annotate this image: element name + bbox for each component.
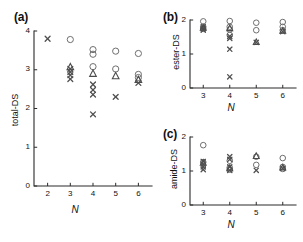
panel-c-series-triangle — [200, 153, 285, 171]
panel-a-label: (a) — [14, 10, 28, 24]
data-point-triangle — [112, 72, 119, 78]
panel-c-series-cross — [201, 155, 285, 173]
figure-scatter-panels: (a) total-DS N 0123423456 (b) ester-DS N… — [0, 0, 303, 242]
panel-a: (a) total-DS N 0123423456 — [0, 0, 160, 242]
data-point-circle — [253, 27, 259, 33]
panel-b-series-cross — [201, 25, 285, 79]
panel-a-series-triangle — [67, 63, 142, 82]
panel-b: (b) ester-DS N 0123456 — [160, 0, 303, 120]
data-point-circle — [113, 66, 119, 72]
panel-c-x-axis-title: N — [216, 219, 246, 230]
data-point-circle — [200, 142, 206, 148]
data-point-circle — [67, 36, 73, 42]
panel-b-xtick-3: 3 — [195, 91, 211, 100]
panel-a-xtick-5: 5 — [108, 189, 124, 198]
data-point-circle — [227, 18, 233, 24]
data-point-circle — [135, 50, 141, 56]
panel-a-ytick-2: 2 — [12, 103, 30, 112]
panel-c-xtick-5: 5 — [248, 208, 264, 217]
data-point-circle — [113, 48, 119, 54]
panel-b-ytick-0: 0 — [168, 83, 186, 92]
panel-a-xtick-6: 6 — [130, 189, 146, 198]
data-point-circle — [90, 64, 96, 70]
data-point-circle — [253, 20, 259, 26]
panel-b-ytick-1: 1 — [168, 49, 186, 58]
panel-c-xtick-3: 3 — [195, 208, 211, 217]
panel-b-x-axis-title: N — [216, 102, 246, 113]
panel-b-xtick-6: 6 — [275, 91, 291, 100]
panel-a-x-axis-title: N — [60, 204, 90, 215]
panel-a-ytick-3: 3 — [12, 64, 30, 73]
panel-b-ytick-2: 2 — [168, 15, 186, 24]
panel-b-xtick-4: 4 — [222, 91, 238, 100]
panel-c: (c) amide-DS N 0123456 — [160, 118, 303, 242]
panel-a-ytick-0: 0 — [12, 181, 30, 190]
panel-c-ytick-2: 2 — [168, 132, 186, 141]
panel-a-xtick-3: 3 — [62, 189, 78, 198]
data-point-triangle — [253, 153, 259, 159]
panel-b-series-circle — [200, 18, 285, 38]
panel-c-axes — [190, 137, 296, 205]
panel-a-ytick-1: 1 — [12, 142, 30, 151]
panel-a-ytick-4: 4 — [12, 26, 30, 35]
panel-c-xtick-4: 4 — [222, 208, 238, 217]
panel-a-series-circle — [67, 36, 141, 80]
data-point-triangle — [90, 70, 97, 76]
panel-b-series-triangle — [200, 25, 285, 45]
panel-c-ytick-0: 0 — [168, 200, 186, 209]
panel-c-series-circle — [200, 142, 285, 172]
panel-b-xtick-5: 5 — [248, 91, 264, 100]
panel-c-ytick-1: 1 — [168, 166, 186, 175]
panel-a-xtick-4: 4 — [85, 189, 101, 198]
panel-c-xtick-6: 6 — [275, 208, 291, 217]
data-point-circle — [280, 155, 286, 161]
data-point-circle — [253, 162, 259, 168]
panel-a-xtick-2: 2 — [40, 189, 56, 198]
data-point-circle — [90, 51, 96, 57]
panel-a-axes — [34, 31, 152, 186]
data-point-circle — [200, 19, 206, 25]
